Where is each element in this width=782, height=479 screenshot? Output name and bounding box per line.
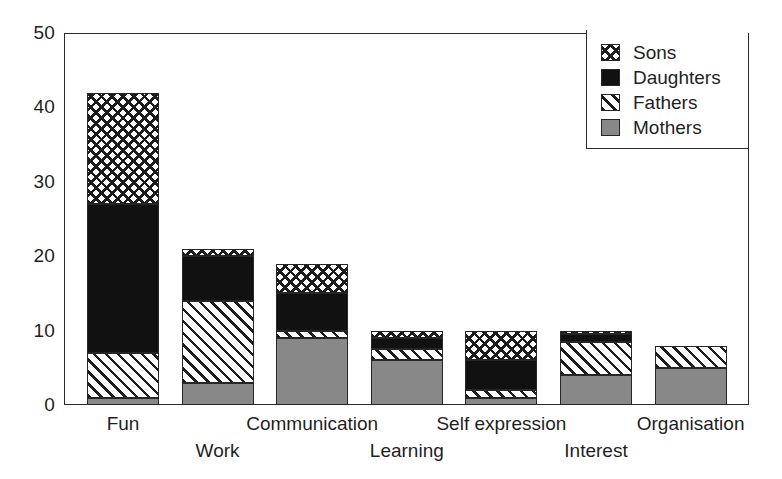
bar-segment-mothers xyxy=(87,398,159,405)
bar-segment-daughters xyxy=(87,204,159,353)
bar-segment-daughters xyxy=(182,256,254,301)
bar-segment-daughters xyxy=(465,360,537,390)
solid-black-swatch xyxy=(601,69,620,86)
diagonal-hatch-swatch xyxy=(601,94,620,111)
legend-item-daughters: Daughters xyxy=(587,65,748,90)
bar-segment-fathers xyxy=(276,331,348,338)
y-axis-tick-labels: 01020304050 xyxy=(0,0,55,479)
x-axis-label-communication: Communication xyxy=(246,413,378,434)
bar-segment-daughters xyxy=(560,334,632,341)
chart-legend: SonsDaughtersFathersMothers xyxy=(586,30,748,149)
bar-segment-mothers xyxy=(182,383,254,405)
bar-segment-mothers xyxy=(655,368,727,405)
x-axis-label-work: Work xyxy=(196,440,240,461)
crosshatch-swatch xyxy=(601,44,620,61)
x-axis-label-learning: Learning xyxy=(370,440,444,461)
bar-segment-sons xyxy=(560,331,632,335)
bar-learning xyxy=(371,331,443,405)
bar-segment-sons xyxy=(465,331,537,361)
x-axis-label-interest: Interest xyxy=(564,440,627,461)
solid-gray-swatch xyxy=(601,119,620,136)
bar-segment-sons xyxy=(371,331,443,338)
bar-segment-fathers xyxy=(182,301,254,383)
bar-segment-sons xyxy=(276,264,348,294)
bar-organisation xyxy=(655,345,727,405)
legend-item-fathers: Fathers xyxy=(587,90,748,115)
bar-segment-fathers xyxy=(655,346,727,368)
y-axis-tick-label: 50 xyxy=(33,23,55,42)
bar-segment-sons xyxy=(87,93,159,205)
legend-item-sons: Sons xyxy=(587,40,748,65)
bar-segment-mothers xyxy=(276,338,348,405)
legend-item-mothers: Mothers xyxy=(587,115,748,140)
bar-segment-fathers xyxy=(87,353,159,398)
y-axis-tick-label: 10 xyxy=(33,321,55,340)
bar-work xyxy=(182,249,254,405)
bar-segment-daughters xyxy=(371,338,443,349)
y-axis-tick-label: 0 xyxy=(44,395,55,414)
y-axis-tick-label: 30 xyxy=(33,172,55,191)
bar-interest xyxy=(560,331,632,405)
x-axis-label-fun: Fun xyxy=(107,413,140,434)
x-axis-label-self-expression: Self expression xyxy=(436,413,566,434)
bar-segment-mothers xyxy=(371,360,443,405)
stacked-bar-chart: 01020304050 FunWorkCommunicationLearning… xyxy=(0,0,782,479)
bar-segment-mothers xyxy=(560,375,632,405)
legend-item-label: Sons xyxy=(633,43,676,62)
bar-segment-fathers xyxy=(371,349,443,360)
y-axis-tick-label: 20 xyxy=(33,246,55,265)
y-axis-tick-label: 40 xyxy=(33,97,55,116)
bar-fun xyxy=(87,93,159,405)
bar-communication xyxy=(276,264,348,405)
bar-self-expression xyxy=(465,331,537,405)
bar-segment-fathers xyxy=(465,390,537,397)
bar-segment-fathers xyxy=(560,342,632,375)
legend-item-label: Fathers xyxy=(633,93,697,112)
x-axis-label-organisation: Organisation xyxy=(637,413,745,434)
bar-segment-mothers xyxy=(465,398,537,405)
bar-segment-sons xyxy=(182,249,254,256)
bar-segment-daughters xyxy=(276,293,348,330)
legend-item-label: Daughters xyxy=(633,68,721,87)
legend-item-label: Mothers xyxy=(633,118,702,137)
